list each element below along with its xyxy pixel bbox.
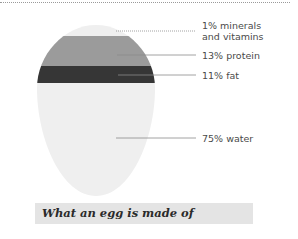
minerals-label: 1% minerals and vitamins	[202, 20, 264, 42]
protein-label: 13% protein	[202, 50, 260, 61]
caption-bar: What an egg is made of	[35, 203, 253, 224]
minerals-band	[30, 20, 170, 37]
protein-band	[30, 36, 170, 66]
fat-label: 11% fat	[202, 70, 239, 81]
minerals-label-line1: 1% minerals	[202, 20, 264, 31]
water-band	[30, 83, 170, 203]
caption-title: What an egg is made of	[42, 206, 194, 220]
water-label: 75% water	[202, 133, 253, 144]
fat-band	[30, 66, 170, 83]
minerals-label-line2: and vitamins	[202, 31, 264, 42]
